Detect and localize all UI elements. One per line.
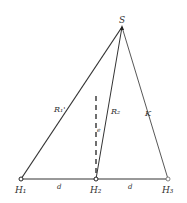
apex-s-marker — [120, 25, 124, 30]
label-h2: H₂ — [89, 185, 102, 195]
label-s: S — [119, 15, 125, 25]
label-h3: H₃ — [161, 185, 174, 195]
label-e: e — [97, 126, 101, 133]
point-h3 — [166, 177, 170, 181]
label-d2: d — [128, 183, 133, 191]
edge-s-h1 — [21, 27, 122, 179]
point-h2 — [94, 177, 98, 181]
label-r2: R₂ — [110, 107, 120, 116]
label-r1: R₁' — [53, 105, 65, 114]
edge-s-h3 — [122, 27, 168, 179]
triangle-diagram: S R₁' R₂ K e d d H₁ H₂ H₃ — [0, 0, 187, 203]
point-h1 — [19, 177, 23, 181]
label-d1: d — [57, 183, 62, 191]
edge-s-h2 — [96, 27, 122, 179]
label-h1: H₁ — [14, 185, 26, 195]
label-k: K — [144, 109, 152, 118]
